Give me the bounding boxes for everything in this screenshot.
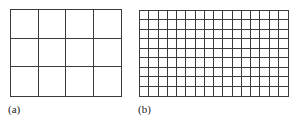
grid-cell xyxy=(205,87,214,96)
grid-cell xyxy=(233,11,242,20)
grid-cell xyxy=(168,20,177,29)
grid-cell xyxy=(168,68,177,77)
grid-cell xyxy=(260,49,269,58)
grid-cell xyxy=(11,10,39,39)
grid-cell xyxy=(279,30,288,39)
grid-cell xyxy=(205,39,214,48)
grid-cell xyxy=(159,68,168,77)
grid-cell xyxy=(177,49,186,58)
grid-cell xyxy=(270,30,279,39)
grid-cell xyxy=(242,39,251,48)
grid-cell xyxy=(233,20,242,29)
grid-cell xyxy=(205,20,214,29)
grid-cell xyxy=(140,30,149,39)
grid-cell xyxy=(177,30,186,39)
grid-cell xyxy=(94,10,122,39)
grid-cell xyxy=(214,39,223,48)
grid-cell xyxy=(149,68,158,77)
panel-label-a: (a) xyxy=(8,103,20,115)
grid-cell xyxy=(279,39,288,48)
grid-cell xyxy=(242,30,251,39)
grid-cell xyxy=(279,20,288,29)
grid-cell xyxy=(196,30,205,39)
grid-cell xyxy=(214,77,223,86)
grid-cell xyxy=(260,11,269,20)
grid-cell xyxy=(270,87,279,96)
grid-cell xyxy=(270,20,279,29)
grid-cell xyxy=(149,20,158,29)
grid-cell xyxy=(223,30,232,39)
grid-cell xyxy=(205,30,214,39)
grid-cell xyxy=(196,68,205,77)
grid-cell xyxy=(140,49,149,58)
grid-cell xyxy=(279,77,288,86)
grid-cell xyxy=(260,39,269,48)
grid-cell xyxy=(159,30,168,39)
grid-cell xyxy=(168,39,177,48)
grid-cell xyxy=(177,68,186,77)
grid-cell xyxy=(140,39,149,48)
grid-cell xyxy=(242,87,251,96)
grid-cell xyxy=(149,87,158,96)
grid-cell xyxy=(223,68,232,77)
grid-cell xyxy=(196,77,205,86)
grid-cell xyxy=(279,49,288,58)
grid-cell xyxy=(251,49,260,58)
grid-cell xyxy=(39,10,67,39)
grid-cell xyxy=(214,11,223,20)
grid-cell xyxy=(94,67,122,96)
grid-cell xyxy=(159,58,168,67)
grid-cell xyxy=(233,39,242,48)
grid-cell xyxy=(186,39,195,48)
grid-cell xyxy=(260,68,269,77)
grid-cell xyxy=(196,20,205,29)
grid-cell xyxy=(251,39,260,48)
grid-cell xyxy=(186,87,195,96)
grid-cell xyxy=(168,87,177,96)
grid-cell xyxy=(177,39,186,48)
grid-cell xyxy=(186,58,195,67)
grid-cell xyxy=(186,68,195,77)
grid-cell xyxy=(140,77,149,86)
grid-cell xyxy=(251,30,260,39)
grid-cell xyxy=(205,77,214,86)
grid-cell xyxy=(159,39,168,48)
grid-cell xyxy=(214,87,223,96)
grid-cell xyxy=(140,87,149,96)
grid-cell xyxy=(270,49,279,58)
grid-cell xyxy=(149,49,158,58)
grid-cell xyxy=(214,68,223,77)
grid-cell xyxy=(149,11,158,20)
grid-cell xyxy=(223,87,232,96)
grid-cell xyxy=(270,58,279,67)
grid-cell xyxy=(260,77,269,86)
grid-cell xyxy=(205,49,214,58)
grid-cell xyxy=(149,39,158,48)
grid-cell xyxy=(159,87,168,96)
grid-cell xyxy=(94,39,122,68)
grid-cell xyxy=(223,77,232,86)
grid-panel-b xyxy=(139,10,289,97)
grid-cell xyxy=(223,39,232,48)
grid-cell xyxy=(168,49,177,58)
grid-cell xyxy=(270,11,279,20)
grid-cell xyxy=(168,58,177,67)
grid-cell xyxy=(149,77,158,86)
grid-cell xyxy=(242,58,251,67)
grid-cell xyxy=(251,68,260,77)
panel-label-b: (b) xyxy=(138,103,151,115)
grid-cell xyxy=(159,77,168,86)
grid-cell xyxy=(214,49,223,58)
grid-cell xyxy=(11,67,39,96)
grid-cell xyxy=(260,20,269,29)
grid-cell xyxy=(233,58,242,67)
grid-cell xyxy=(223,49,232,58)
grid-cell xyxy=(260,58,269,67)
grid-cell xyxy=(186,30,195,39)
grid-cell xyxy=(159,11,168,20)
grid-cell xyxy=(39,39,67,68)
grid-cell xyxy=(66,10,94,39)
grid-cell xyxy=(177,11,186,20)
grid-cell xyxy=(11,39,39,68)
grid-cell xyxy=(177,20,186,29)
